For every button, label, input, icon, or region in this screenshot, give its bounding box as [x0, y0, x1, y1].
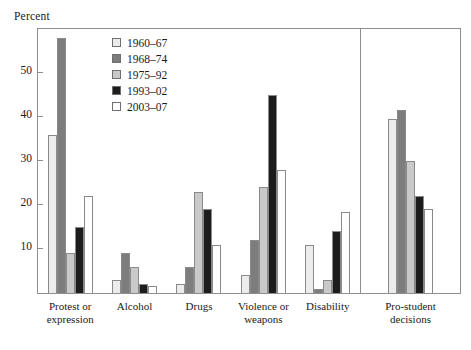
x-axis-category-label: Pro-studentdecisions: [361, 300, 460, 326]
x-axis-category-label: Violence orweapons: [231, 300, 295, 326]
bar: [250, 240, 259, 293]
x-axis-category-label-line: expression: [38, 313, 102, 326]
legend: 1960–671968–741975–921993–022003–07: [112, 36, 167, 113]
bar: [268, 95, 277, 293]
legend-swatch-icon: [112, 86, 121, 95]
x-axis-category-label-line: Alcohol: [102, 300, 166, 313]
y-axis-tick-label: 30: [21, 152, 33, 164]
legend-swatch-icon: [112, 54, 121, 63]
legend-item: 1993–02: [112, 84, 167, 97]
bar-group: [296, 28, 360, 293]
bar: [75, 227, 84, 293]
bar-chart: Percent 1020304050 Protest orexpressionA…: [0, 0, 471, 350]
legend-label: 1960–67: [127, 37, 167, 49]
bar: [388, 119, 397, 293]
y-axis-tick-label: 20: [21, 196, 33, 208]
legend-item: 1975–92: [112, 68, 167, 81]
bar: [314, 289, 323, 293]
y-axis-tick-label: 10: [21, 240, 33, 252]
bar: [241, 275, 250, 293]
x-axis-category-label-line: weapons: [231, 313, 295, 326]
bar: [203, 209, 212, 293]
bar: [185, 267, 194, 293]
y-axis-title: Percent: [14, 10, 50, 22]
legend-swatch-icon: [112, 38, 121, 47]
bar: [406, 161, 415, 293]
bar-group: [38, 28, 102, 293]
x-axis-category-label-line: Disability: [296, 300, 360, 313]
bar: [48, 135, 57, 293]
bar: [84, 196, 93, 293]
legend-label: 1993–02: [127, 85, 167, 97]
legend-item: 1960–67: [112, 36, 167, 49]
x-axis-category-label: Disability: [296, 300, 360, 313]
x-axis-category-label: Drugs: [167, 300, 231, 313]
y-axis-tick-label: 40: [21, 108, 33, 120]
bar: [332, 231, 341, 293]
bar: [212, 245, 221, 293]
bar: [112, 280, 121, 293]
legend-label: 2003–07: [127, 101, 167, 113]
bar: [415, 196, 424, 293]
bar: [176, 284, 185, 293]
bar: [397, 110, 406, 293]
bar: [341, 212, 350, 293]
x-axis-category-label: Alcohol: [102, 300, 166, 313]
bar: [130, 267, 139, 293]
y-axis-tick-label: 50: [21, 64, 33, 76]
legend-label: 1968–74: [127, 53, 167, 65]
x-axis-category-label-line: Violence or: [231, 300, 295, 313]
bar: [259, 187, 268, 293]
x-axis-category-label-line: Pro-student: [361, 300, 460, 313]
bar-group: [361, 28, 460, 293]
legend-swatch-icon: [112, 102, 121, 111]
bar: [277, 170, 286, 293]
legend-item: 1968–74: [112, 52, 167, 65]
bar: [148, 286, 157, 293]
bar: [305, 245, 314, 293]
bar: [66, 253, 75, 293]
legend-item: 2003–07: [112, 100, 167, 113]
bar: [194, 192, 203, 293]
x-axis-category-label: Protest orexpression: [38, 300, 102, 326]
bar-group: [231, 28, 295, 293]
bar: [323, 280, 332, 293]
x-axis-category-label-line: Protest or: [38, 300, 102, 313]
bar: [57, 38, 66, 293]
x-axis-category-label-line: Drugs: [167, 300, 231, 313]
bar: [139, 284, 148, 293]
bar: [121, 253, 130, 293]
bar: [424, 209, 433, 293]
legend-label: 1975–92: [127, 69, 167, 81]
x-axis-category-label-line: decisions: [361, 313, 460, 326]
legend-swatch-icon: [112, 70, 121, 79]
bar-group: [167, 28, 231, 293]
